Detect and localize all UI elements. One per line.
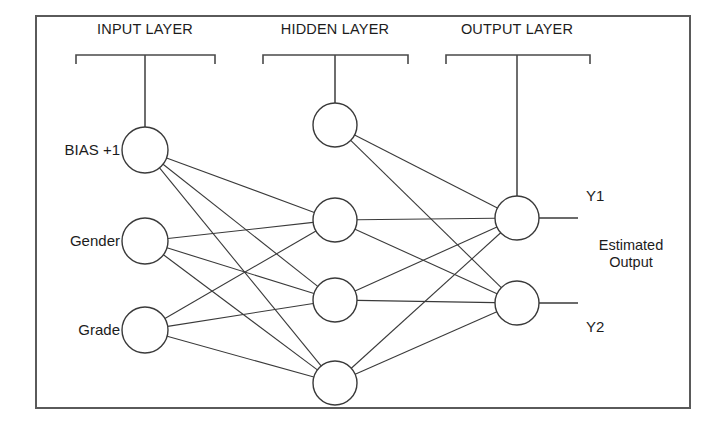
layer-title-hidden: HIDDEN LAYER xyxy=(281,21,390,38)
node-bias xyxy=(122,127,168,173)
output-label-y2: Y2 xyxy=(586,318,604,335)
edge-bias-to-h3 xyxy=(163,164,318,286)
edge-h4-to-o2 xyxy=(355,312,497,374)
input-node-label-grade: Grade xyxy=(78,321,120,338)
output-lines xyxy=(539,218,578,303)
edge-h3-to-o1 xyxy=(355,227,497,291)
edge-gender-to-h4 xyxy=(163,255,317,370)
edge-h1-to-o1 xyxy=(355,135,498,208)
layer-title-output: OUTPUT LAYER xyxy=(461,21,573,38)
edge-h2-to-o2 xyxy=(355,229,497,294)
edge-h1-to-o2 xyxy=(351,140,502,287)
layer-brackets xyxy=(76,55,590,64)
connection-edges xyxy=(160,135,502,377)
network-graphic xyxy=(0,0,717,430)
input-node-label-gender: Gender xyxy=(70,232,120,249)
neuron-nodes xyxy=(122,103,539,405)
node-gender xyxy=(122,218,168,264)
node-h3 xyxy=(313,278,357,322)
edge-gender-to-h3 xyxy=(167,248,314,294)
node-o2 xyxy=(495,281,539,325)
output-label-y1: Y1 xyxy=(586,187,604,204)
layer-title-input: INPUT LAYER xyxy=(97,21,193,38)
edge-bias-to-h4 xyxy=(160,168,322,366)
node-o1 xyxy=(495,196,539,240)
node-h4 xyxy=(313,361,357,405)
node-h2 xyxy=(313,198,357,242)
edge-grade-to-h2 xyxy=(165,231,316,318)
edge-grade-to-h3 xyxy=(168,303,314,326)
diagram-canvas: INPUT LAYER HIDDEN LAYER OUTPUT LAYER BI… xyxy=(0,0,717,430)
estimated-output-line2: Output xyxy=(609,254,653,270)
node-grade xyxy=(122,307,168,353)
estimated-output-label: Estimated Output xyxy=(599,237,663,270)
input-node-label-bias: BIAS +1 xyxy=(65,141,120,158)
bracket-output xyxy=(446,55,590,64)
edge-h2-to-o1 xyxy=(357,218,495,220)
edge-grade-to-h4 xyxy=(167,336,314,377)
estimated-output-line1: Estimated xyxy=(599,237,663,253)
node-h1 xyxy=(313,103,357,147)
